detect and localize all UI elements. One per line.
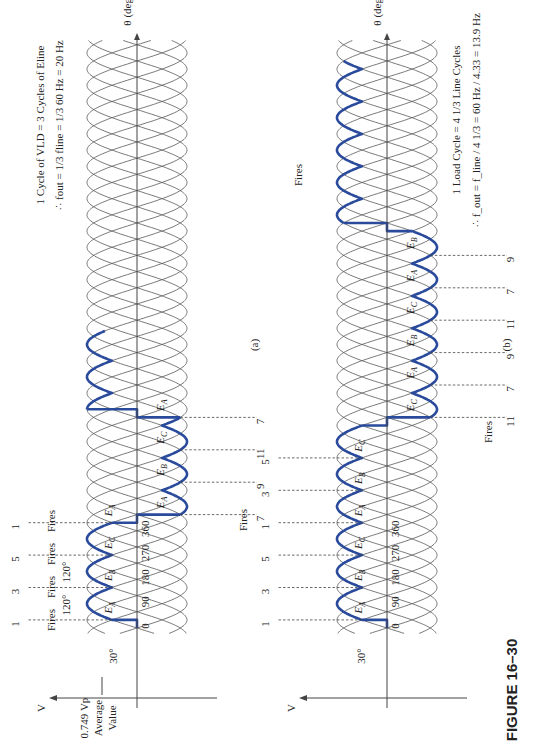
firing-number-9: 9 [504, 256, 516, 262]
firing-number-3: 3 [259, 491, 271, 497]
bump-label: EA [352, 602, 367, 615]
cycloconverter-waveform-figure: θ (deg)V090180270360135179117EAEBECEAEAE… [0, 0, 535, 755]
bump-label: EA [352, 505, 367, 518]
firing-number-9: 9 [504, 353, 516, 359]
delay-angle-label: 30° [355, 648, 367, 663]
fires-label: Fires [482, 421, 494, 443]
firing-number-3: 3 [9, 588, 21, 594]
fires-label: Fires [45, 510, 57, 532]
bump-label: EA [404, 367, 419, 380]
fires-label: Fires [45, 576, 57, 598]
firing-number-5: 5 [259, 459, 271, 465]
bump-label: EC [352, 536, 367, 550]
firing-step-pos [344, 223, 412, 231]
delay-angle-label: 30° [107, 648, 119, 663]
vld-axis-arrow-icon [49, 695, 57, 701]
bump-label: EB [352, 472, 367, 485]
average-value-line1: 0.749 Vp [78, 697, 90, 738]
bump-label: EB [154, 464, 169, 477]
tick-label-90: 90 [389, 596, 401, 608]
tick-label-180: 180 [139, 569, 151, 586]
interval-label: 120° [60, 562, 72, 583]
tick-label-180: 180 [389, 569, 401, 586]
firing-number-7: 7 [504, 386, 516, 392]
tick-label-360: 360 [389, 520, 401, 537]
fires-label: Fires [292, 164, 304, 186]
fires-label: Fires [45, 543, 57, 565]
bump-label: EC [352, 439, 367, 453]
fires-label: Fires [237, 509, 249, 531]
firing-number-11: 11 [504, 416, 516, 427]
firing-number-1: 1 [9, 621, 21, 627]
tick-label-0: 0 [139, 623, 151, 629]
tick-label-360: 360 [139, 520, 151, 537]
firing-number-1: 1 [9, 524, 21, 530]
bump-label: EA [102, 505, 117, 518]
firing-number-11: 11 [254, 449, 266, 460]
bump-label: EB [102, 569, 117, 582]
firing-number-7: 7 [254, 515, 266, 521]
bump-label: EC [404, 399, 419, 413]
firing-number-9: 9 [254, 483, 266, 489]
firing-number-7: 7 [254, 418, 266, 424]
firing-number-11: 11 [504, 319, 516, 330]
tick-label-0: 0 [389, 623, 401, 629]
bump-label: EC [404, 301, 419, 315]
firing-number-5: 5 [259, 556, 271, 562]
bump-label: EC [102, 536, 117, 550]
firing-number-1: 1 [259, 524, 271, 530]
firing-number-7: 7 [504, 289, 516, 295]
bump-label: EB [352, 569, 367, 582]
panel-b-label: (b) [500, 338, 513, 351]
bump-label: EA [102, 602, 117, 615]
average-value-line3: Value [106, 705, 118, 730]
panel-a-info-2: ∴ fout = 1/3 fline = 1/3 60 Hz = 20 Hz [53, 40, 65, 210]
firing-number-1: 1 [259, 621, 271, 627]
tick-label-90: 90 [139, 596, 151, 608]
bump-label: EA [404, 270, 419, 283]
panel-a-waveforms: θ (deg)V090180270360135179117EAEBECEAEAE… [9, 0, 266, 712]
bump-label: EA [154, 399, 169, 412]
firing-number-3: 3 [259, 588, 271, 594]
theta-axis-label: θ (deg) [121, 0, 134, 26]
output-negative [412, 231, 437, 417]
fires-label: Fires [45, 609, 57, 631]
panel-a-info-1: 1 Cycle of VLD = 3 Cycles of Eline [34, 46, 46, 205]
theta-axis-label: θ (deg) [371, 0, 384, 26]
figure-caption: FIGURE 16–30 [503, 639, 520, 742]
bump-label: EC [154, 431, 169, 445]
average-value-line2: Average [92, 700, 104, 737]
vld-axis-label: V [285, 704, 297, 712]
panel-b-info-2: ∴ f_out = f_line / 4 1/3 = 60 Hz / 4.33 … [470, 13, 482, 227]
output-positive-1 [337, 426, 362, 620]
vld-axis-label: V [35, 704, 47, 712]
interval-label: 120° [60, 595, 72, 616]
panel-b-info-1: 1 Load Cycle = 4 1/3 Line Cycles [450, 46, 462, 195]
tick-label-270: 270 [139, 544, 151, 561]
bump-label: EB [404, 334, 419, 347]
output-positive-2 [337, 61, 362, 223]
bump-label: EA [154, 496, 169, 509]
firing-step-neg [362, 417, 430, 425]
theta-axis-arrow-icon [384, 33, 390, 40]
theta-axis-arrow-icon [134, 33, 140, 40]
firing-number-5: 5 [9, 556, 21, 562]
figure-labels: (a)(b)FiresFiresFiresFiresFiresFiresFire… [34, 13, 520, 741]
panel-a-label: (a) [248, 339, 261, 352]
vld-axis-arrow-icon [299, 695, 307, 701]
tick-label-270: 270 [389, 544, 401, 561]
bump-label: EB [404, 237, 419, 250]
